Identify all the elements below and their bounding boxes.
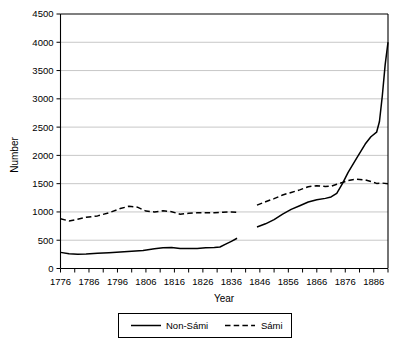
y-tick-label-1000: 1000 — [32, 206, 53, 217]
x-axis-tick-labels: 1776178617961806181618261836184618561866… — [50, 276, 384, 287]
x-tick-label-1876: 1876 — [335, 276, 356, 287]
x-axis-title: Year — [214, 293, 235, 304]
x-tick-label-1796: 1796 — [107, 276, 128, 287]
population-line-chart: 050010001500200025003000350040004500 177… — [0, 0, 404, 350]
y-tick-label-0: 0 — [48, 263, 53, 274]
legend-label-non-sami: Non-Sámi — [166, 320, 208, 331]
legend: Non-Sámi Sámi — [119, 314, 292, 338]
y-tick-label-2000: 2000 — [32, 150, 53, 161]
series-paths — [61, 42, 389, 254]
series-line-s-mi-segment-2 — [257, 179, 388, 205]
y-tick-label-3500: 3500 — [32, 65, 53, 76]
x-tick-label-1786: 1786 — [78, 276, 99, 287]
y-tick-label-2500: 2500 — [32, 122, 53, 133]
chart-container: 050010001500200025003000350040004500 177… — [0, 0, 404, 350]
x-tick-label-1886: 1886 — [363, 276, 384, 287]
y-tick-label-4000: 4000 — [32, 37, 53, 48]
y-tick-label-500: 500 — [38, 235, 54, 246]
plot-frame — [61, 14, 389, 269]
x-tick-label-1776: 1776 — [50, 276, 71, 287]
y-axis-title: Number — [9, 137, 20, 173]
y-tick-label-4500: 4500 — [32, 8, 53, 19]
y-axis-ticks — [57, 14, 61, 269]
y-axis-tick-labels: 050010001500200025003000350040004500 — [32, 8, 53, 274]
series-line-non-s-mi-segment-1 — [61, 238, 238, 254]
x-tick-label-1826: 1826 — [192, 276, 213, 287]
y-tick-label-3000: 3000 — [32, 93, 53, 104]
x-tick-label-1816: 1816 — [164, 276, 185, 287]
x-tick-label-1866: 1866 — [306, 276, 327, 287]
x-tick-label-1836: 1836 — [221, 276, 242, 287]
gridlines — [61, 42, 389, 240]
x-tick-label-1846: 1846 — [249, 276, 270, 287]
x-tick-label-1806: 1806 — [135, 276, 156, 287]
y-tick-label-1500: 1500 — [32, 178, 53, 189]
legend-label-sami: Sámi — [261, 320, 283, 331]
series-line-non-s-mi-segment-2 — [257, 42, 388, 227]
x-tick-label-1856: 1856 — [278, 276, 299, 287]
x-axis-ticks — [61, 269, 389, 273]
series-line-s-mi-segment-1 — [61, 206, 238, 221]
